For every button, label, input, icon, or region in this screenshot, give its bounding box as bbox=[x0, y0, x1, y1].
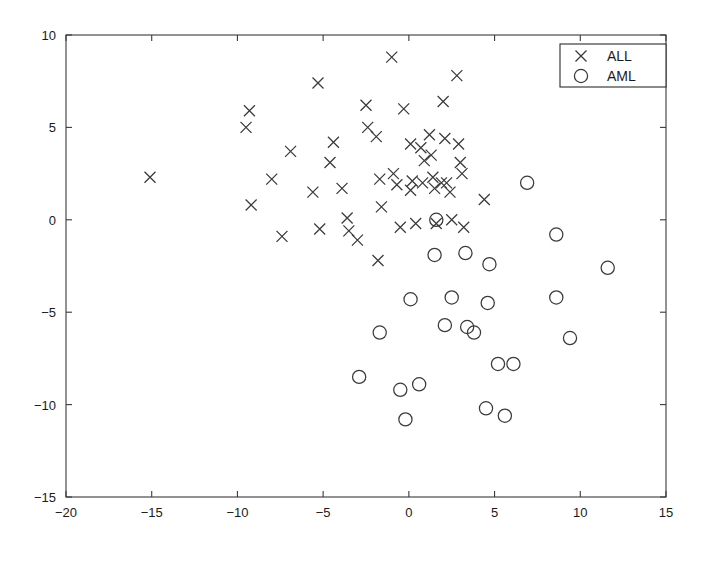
axes-border bbox=[66, 35, 666, 497]
y-tick-label: −10 bbox=[34, 398, 56, 413]
data-point-x bbox=[417, 177, 428, 188]
data-point-circle bbox=[373, 326, 386, 339]
data-point-x bbox=[373, 255, 384, 266]
data-point-x bbox=[374, 174, 385, 185]
data-point-circle bbox=[481, 296, 494, 309]
legend-entry-label: AML bbox=[607, 68, 636, 84]
data-point-circle bbox=[563, 331, 576, 344]
data-point-x bbox=[307, 187, 318, 198]
data-point-x bbox=[419, 155, 430, 166]
data-point-x bbox=[410, 218, 421, 229]
data-point-x bbox=[405, 139, 416, 150]
data-point-x bbox=[429, 183, 440, 194]
y-tick-label: 5 bbox=[49, 120, 56, 135]
legend-entry-label: ALL bbox=[607, 48, 632, 64]
data-point-x bbox=[352, 235, 363, 246]
data-point-x bbox=[342, 212, 353, 223]
y-axis-tick-labels: −15−10−50510 bbox=[34, 28, 56, 505]
data-point-x bbox=[313, 78, 324, 89]
x-tick-label: −10 bbox=[226, 505, 248, 520]
y-tick-label: 10 bbox=[42, 28, 56, 43]
x-tick-label: −5 bbox=[316, 505, 331, 520]
data-point-circle bbox=[498, 409, 511, 422]
data-point-x bbox=[441, 177, 452, 188]
data-point-circle bbox=[479, 402, 492, 415]
data-point-x bbox=[398, 103, 409, 114]
data-series-aml bbox=[353, 176, 615, 426]
data-point-x bbox=[439, 133, 450, 144]
data-point-x bbox=[371, 131, 382, 142]
data-point-circle bbox=[550, 228, 563, 241]
data-point-x bbox=[424, 129, 435, 140]
data-point-circle bbox=[353, 370, 366, 383]
data-point-x bbox=[395, 222, 406, 233]
data-point-circle bbox=[459, 246, 472, 259]
data-point-circle bbox=[428, 248, 441, 261]
x-tick-label: 10 bbox=[573, 505, 587, 520]
data-point-x bbox=[277, 231, 288, 242]
data-point-x bbox=[145, 172, 156, 183]
data-point-x bbox=[431, 218, 442, 229]
data-point-x bbox=[446, 214, 457, 225]
y-tick-label: −5 bbox=[41, 305, 56, 320]
data-point-x bbox=[438, 96, 449, 107]
data-point-circle bbox=[601, 261, 614, 274]
data-point-circle bbox=[507, 357, 520, 370]
data-point-x bbox=[337, 183, 348, 194]
data-point-circle bbox=[445, 291, 458, 304]
data-point-x bbox=[405, 185, 416, 196]
data-point-x bbox=[241, 122, 252, 133]
data-point-circle bbox=[430, 213, 443, 226]
y-tick-label: −15 bbox=[34, 490, 56, 505]
data-point-x bbox=[314, 224, 325, 235]
x-axis-ticks bbox=[66, 35, 666, 497]
x-tick-label: 5 bbox=[491, 505, 498, 520]
data-point-circle bbox=[404, 293, 417, 306]
data-point-x bbox=[325, 157, 336, 168]
data-point-x bbox=[391, 179, 402, 190]
data-point-x bbox=[426, 150, 437, 161]
data-point-circle bbox=[399, 413, 412, 426]
data-point-x bbox=[453, 139, 464, 150]
data-point-x bbox=[328, 137, 339, 148]
data-point-x bbox=[455, 157, 466, 168]
data-point-x bbox=[244, 105, 255, 116]
y-tick-label: 0 bbox=[49, 213, 56, 228]
x-tick-label: 15 bbox=[659, 505, 673, 520]
y-axis-ticks bbox=[66, 35, 666, 497]
x-axis-tick-labels: −20−15−10−5051015 bbox=[55, 505, 673, 520]
x-tick-label: 0 bbox=[405, 505, 412, 520]
data-point-x bbox=[388, 168, 399, 179]
data-point-circle bbox=[483, 258, 496, 271]
data-series-all bbox=[145, 52, 490, 266]
data-point-circle bbox=[413, 378, 426, 391]
plot-canvas: −20−15−10−5051015 −15−10−50510 ALLAML bbox=[0, 0, 703, 565]
data-point-x bbox=[451, 70, 462, 81]
data-point-x bbox=[458, 222, 469, 233]
data-point-circle bbox=[394, 383, 407, 396]
data-point-x bbox=[457, 168, 468, 179]
data-point-x bbox=[479, 194, 490, 205]
data-point-x bbox=[361, 100, 372, 111]
data-point-x bbox=[415, 142, 426, 153]
data-point-x bbox=[445, 187, 456, 198]
axes-frame bbox=[66, 35, 666, 497]
x-tick-label: −20 bbox=[55, 505, 77, 520]
data-point-circle bbox=[438, 319, 451, 332]
data-point-x bbox=[285, 146, 296, 157]
data-point-x bbox=[376, 201, 387, 212]
data-point-x bbox=[266, 174, 277, 185]
data-point-circle bbox=[521, 176, 534, 189]
scatter-plot-figure: −20−15−10−5051015 −15−10−50510 ALLAML bbox=[0, 0, 703, 565]
data-point-x bbox=[246, 200, 257, 211]
data-point-circle bbox=[491, 357, 504, 370]
data-point-circle bbox=[550, 291, 563, 304]
x-tick-label: −15 bbox=[141, 505, 163, 520]
legend: ALLAML bbox=[560, 44, 666, 87]
data-point-x bbox=[386, 52, 397, 63]
